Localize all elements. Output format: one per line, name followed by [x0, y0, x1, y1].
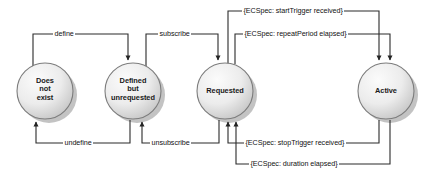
edge-subscribe — [146, 34, 218, 66]
state-diagram: Does not exist Defined but unrequested R… — [0, 0, 425, 178]
edge-label-subscribe: subscribe — [158, 30, 191, 38]
edge-label-define: define — [53, 30, 75, 38]
edge-label-duration: {ECSpec: duration elapsed} — [249, 160, 339, 168]
state-node-defined-but-unrequested[interactable] — [105, 63, 161, 119]
edge-repeat-period — [235, 34, 390, 64]
edge-label-stop-trigger: {ECSpec: stopTrigger received} — [244, 139, 346, 147]
state-node-active[interactable] — [358, 63, 414, 119]
edge-label-repeat-period: {ECSpec: repeatPeriod elapsed} — [243, 30, 348, 38]
edge-label-undefine: undefine — [63, 139, 93, 147]
edge-label-start-trigger: {ECSpec: startTrigger received} — [242, 7, 344, 15]
edge-label-unsubscribe: unsubscribe — [150, 139, 191, 147]
state-node-does-not-exist[interactable] — [17, 63, 73, 119]
state-node-requested[interactable] — [197, 63, 253, 119]
diagram-canvas — [0, 0, 425, 178]
